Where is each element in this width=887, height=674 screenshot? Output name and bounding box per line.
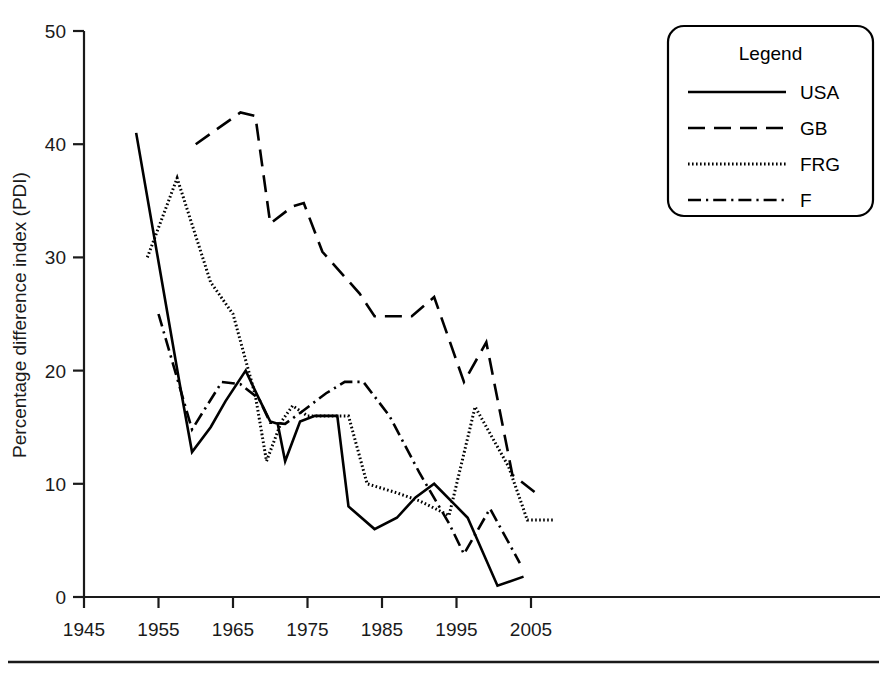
series-line-gb [196, 113, 539, 496]
x-tick-label: 1965 [212, 619, 254, 640]
chart-series-group [136, 113, 553, 586]
series-line-usa [136, 133, 523, 586]
y-axis-title: Percentage difference index (PDI) [9, 172, 30, 458]
y-tick-label: 30 [45, 247, 66, 268]
x-tick-label: 1945 [63, 619, 105, 640]
y-tick-label: 20 [45, 361, 66, 382]
y-tick-label: 0 [55, 587, 66, 608]
y-tick-label: 50 [45, 21, 66, 42]
line-chart: 010203040501945195519651975198519952005P… [0, 0, 887, 674]
series-line-frg [147, 178, 553, 520]
legend: LegendUSAGBFRGF [668, 26, 873, 216]
legend-title: Legend [739, 43, 802, 64]
legend-label-frg[interactable]: FRG [800, 154, 840, 175]
x-tick-label: 1985 [361, 619, 403, 640]
y-tick-label: 40 [45, 134, 66, 155]
y-tick-label: 10 [45, 474, 66, 495]
chart-figure: 010203040501945195519651975198519952005P… [0, 0, 887, 674]
x-tick-label: 2005 [510, 619, 552, 640]
legend-label-gb[interactable]: GB [800, 118, 827, 139]
x-tick-label: 1995 [435, 619, 477, 640]
x-tick-label: 1955 [137, 619, 179, 640]
legend-label-f[interactable]: F [800, 190, 812, 211]
legend-label-usa[interactable]: USA [800, 82, 839, 103]
x-tick-label: 1975 [286, 619, 328, 640]
